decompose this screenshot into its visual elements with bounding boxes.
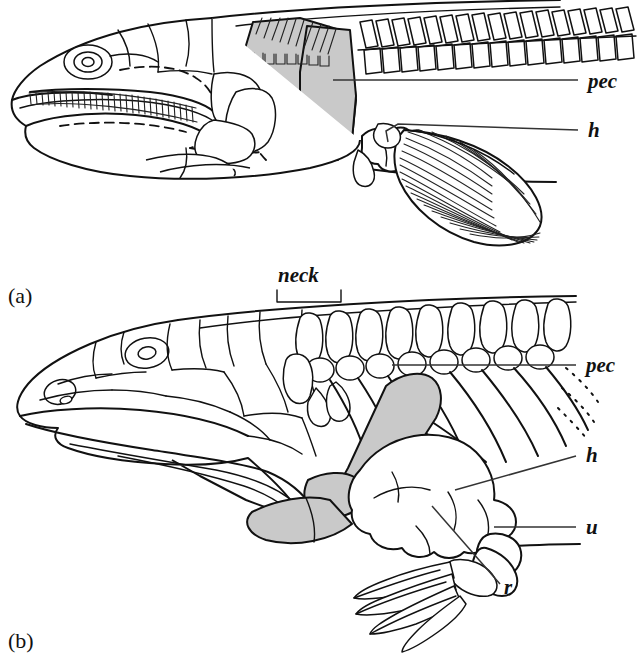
panel-label-a: (a) [8,283,32,308]
label-pec-a: pec [586,69,618,93]
label-neck-b: neck [278,263,319,287]
fish-pupil [82,58,94,67]
label-h-b: h [586,443,598,467]
anatomy-figure: pec h (a) neck [0,0,640,660]
label-r-b: r [504,575,513,599]
label-h-a: h [588,118,600,142]
tetrapod-atlas [283,354,313,404]
label-pec-b: pec [584,353,616,377]
label-u-b: u [586,515,598,539]
panel-label-b: (b) [8,628,34,653]
